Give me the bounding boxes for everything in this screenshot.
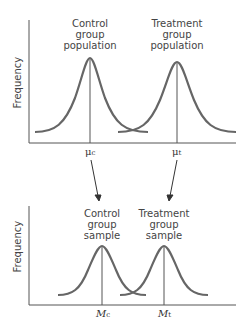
mu-c-label: μc — [85, 146, 95, 157]
label-line: group — [60, 29, 120, 40]
label-line: population — [60, 40, 120, 51]
mean-subscript: t — [168, 311, 171, 319]
treatment-population-label: Treatment group population — [145, 18, 209, 51]
control-population-curve — [35, 58, 148, 132]
mu-t-label: μt — [172, 146, 181, 157]
mean-subscript: t — [179, 149, 182, 157]
control-sample-label: Control group sample — [76, 208, 128, 241]
m-t-label: Mt — [158, 308, 171, 319]
bottom-y-axis-label: Frequency — [12, 223, 23, 273]
control-population-label: Control group population — [60, 18, 120, 51]
bottom-axes — [29, 206, 236, 305]
label-line: group — [145, 29, 209, 40]
label-line: Treatment — [134, 208, 194, 219]
label-line: Treatment — [145, 18, 209, 29]
label-line: Control — [60, 18, 120, 29]
label-line: population — [145, 40, 209, 51]
mean-symbol: M — [158, 308, 168, 319]
label-line: sample — [134, 230, 194, 241]
m-c-label: Mc — [96, 308, 110, 319]
arrows — [91, 160, 177, 201]
mean-subscript: c — [106, 311, 110, 319]
diagram-canvas — [0, 0, 249, 336]
treatment-sample-label: Treatment group sample — [134, 208, 194, 241]
mean-symbol: M — [96, 308, 106, 319]
label-line: group — [76, 219, 128, 230]
mean-subscript: c — [92, 149, 96, 157]
top-y-axis-label: Frequency — [12, 59, 23, 109]
label-line: Control — [76, 208, 128, 219]
label-line: group — [134, 219, 194, 230]
label-line: sample — [76, 230, 128, 241]
